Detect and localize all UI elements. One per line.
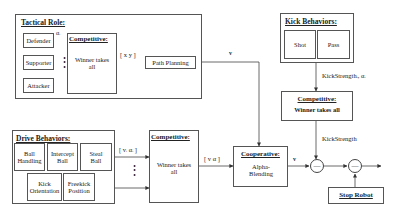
drive-ball-handling[interactable]: Ball Handling xyxy=(14,143,45,171)
drive-intercept-ball-label: Intercept Ball xyxy=(48,150,77,165)
cooperative-title: Cooperative: xyxy=(234,150,287,158)
summing-node-2-sign: — xyxy=(352,162,359,170)
alpha-label: αᵢ xyxy=(56,30,60,36)
drive-ball-handling-label: Ball Handling xyxy=(15,150,44,165)
v-alpha-label: [ v α ] xyxy=(204,155,220,162)
drive-kick-orientation[interactable]: Kick Orientation xyxy=(27,173,62,201)
drive-freekick-position-label: Freekick Position xyxy=(64,180,94,195)
path-planning-box[interactable]: Path Planning xyxy=(145,56,196,69)
drive-steal-ball[interactable]: Steal Ball xyxy=(80,143,112,171)
kick-pass[interactable]: Pass xyxy=(317,30,350,59)
drive-ellipsis: ⋮ xyxy=(128,163,141,177)
summing-node-1-sign: — xyxy=(314,162,321,170)
cooperative-box[interactable]: Cooperative: Alpha-Blending xyxy=(233,146,288,187)
path-planning-label: Path Planning xyxy=(152,59,188,66)
tactical-competitive-box[interactable]: Competitive: Winner takes all xyxy=(67,33,117,94)
drive-competitive-title: Competitive: xyxy=(151,133,190,141)
drive-steal-ball-label: Steal Ball xyxy=(81,150,111,165)
drive-freekick-position[interactable]: Freekick Position xyxy=(63,173,95,201)
v-label-top: v xyxy=(229,50,232,56)
role-defender[interactable]: Defender xyxy=(23,33,54,48)
kickstrength-label: KickStrength xyxy=(322,135,357,142)
summing-node-2: — xyxy=(348,159,362,173)
drive-kick-orientation-label: Kick Orientation xyxy=(28,180,61,195)
drive-competitive-body: Winner takes all xyxy=(154,161,194,176)
tactical-role-title: Tactical Role: xyxy=(21,18,65,27)
drive-competitive-box[interactable]: Competitive: Winner takes all xyxy=(149,130,199,203)
stop-robot-box[interactable]: Stop Robot xyxy=(328,187,384,204)
tactical-competitive-body: Winner takes all xyxy=(72,56,112,71)
xy-output-label: [ x y ] xyxy=(120,51,136,58)
stop-robot-label: Stop Robot xyxy=(339,191,373,199)
vi-alpha-label: [ vᵢ αᵢ ] xyxy=(119,146,137,153)
kick-shot-label: Shot xyxy=(294,41,306,48)
kick-competitive-box[interactable]: Competitive: Winner takes all xyxy=(281,91,353,121)
kickstrength-alpha-label: KickStrengthᵢ, αᵢ xyxy=(322,72,365,79)
summing-node-1: — xyxy=(310,159,324,173)
v-label-bottom: v xyxy=(293,156,296,162)
drive-intercept-ball[interactable]: Intercept Ball xyxy=(47,143,78,171)
cooperative-body: Alpha-Blending xyxy=(244,163,278,178)
role-supporter[interactable]: Supporter xyxy=(23,55,54,70)
role-attacker[interactable]: Attacker xyxy=(23,78,54,93)
kick-behaviors-title: Kick Behaviors: xyxy=(285,17,337,26)
kick-competitive-title: Competitive: xyxy=(282,95,352,103)
tactical-competitive-title: Competitive: xyxy=(69,35,108,43)
kick-shot[interactable]: Shot xyxy=(284,30,316,59)
role-attacker-label: Attacker xyxy=(27,82,49,89)
kick-pass-label: Pass xyxy=(328,41,340,48)
drive-behaviors-title: Drive Behaviors: xyxy=(16,134,70,143)
role-supporter-label: Supporter xyxy=(26,59,52,66)
kick-competitive-body: Winner takes all xyxy=(282,106,352,113)
role-defender-label: Defender xyxy=(26,37,50,44)
